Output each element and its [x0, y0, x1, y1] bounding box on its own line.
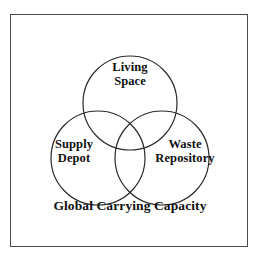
- figure-caption: Global Carrying Capacity: [11, 198, 249, 214]
- label-living-space-line1: Living: [112, 60, 147, 74]
- label-supply-depot-line1: Supply: [55, 137, 93, 151]
- label-supply-depot: Supply Depot: [34, 137, 114, 165]
- clipped-page-title-text: — ———— —— ——: [0, 0, 263, 3]
- label-waste-repository-line1: Waste: [168, 137, 201, 151]
- label-living-space: Living Space: [90, 60, 170, 88]
- label-waste-repository: Waste Repository: [137, 137, 233, 165]
- clipped-page-title: — ———— —— ——: [0, 0, 263, 5]
- figure-frame: Living Space Supply Depot Waste Reposito…: [10, 14, 248, 247]
- label-supply-depot-line2: Depot: [34, 151, 114, 165]
- label-living-space-line2: Space: [90, 74, 170, 88]
- label-waste-repository-line2: Repository: [137, 151, 233, 165]
